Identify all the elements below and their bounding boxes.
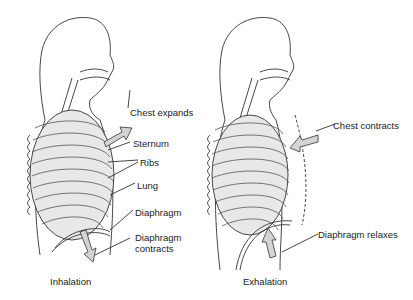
label-sternum: Sternum xyxy=(133,138,169,149)
exhalation-figure xyxy=(208,17,336,270)
label-diaphragm-contracts-1: Diaphragm xyxy=(135,232,181,243)
label-diaphragm-contracts-2: contracts xyxy=(135,243,174,254)
diaphragm-relaxes-arrow xyxy=(262,228,276,258)
label-chest-expands: Chest expands xyxy=(130,107,193,118)
label-lung: Lung xyxy=(137,180,158,191)
chest-expands-arrow xyxy=(104,127,132,147)
breathing-diagram xyxy=(0,0,413,300)
label-ribs: Ribs xyxy=(140,157,159,168)
label-diaphragm: Diaphragm xyxy=(135,207,181,218)
panel-title-exhalation: Exhalation xyxy=(243,276,287,287)
label-diaphragm-relaxes: Diaphragm relaxes xyxy=(318,229,398,240)
chest-contracts-arrow xyxy=(290,135,318,152)
panel-title-inhalation: Inhalation xyxy=(50,276,91,287)
label-chest-contracts: Chest contracts xyxy=(333,120,399,131)
